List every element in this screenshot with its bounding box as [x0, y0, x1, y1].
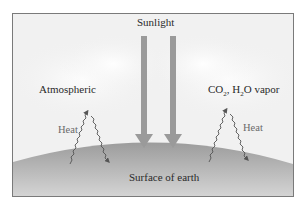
- sunlight-label: Sunlight: [137, 16, 174, 28]
- diagram-graphics: [13, 14, 293, 196]
- surface-of-earth-label: Surface of earth: [129, 171, 199, 183]
- greenhouse-diagram: Sunlight Atmospheric CO2, H2O vapor Heat…: [12, 13, 294, 197]
- heat-label-left: Heat: [58, 124, 78, 135]
- earth-surface: [13, 142, 293, 196]
- co2-h2o-vapor-label: CO2, H2O vapor: [208, 83, 279, 98]
- atmospheric-label: Atmospheric: [39, 83, 96, 95]
- cloud-right: [148, 34, 293, 119]
- heat-label-right: Heat: [243, 122, 263, 133]
